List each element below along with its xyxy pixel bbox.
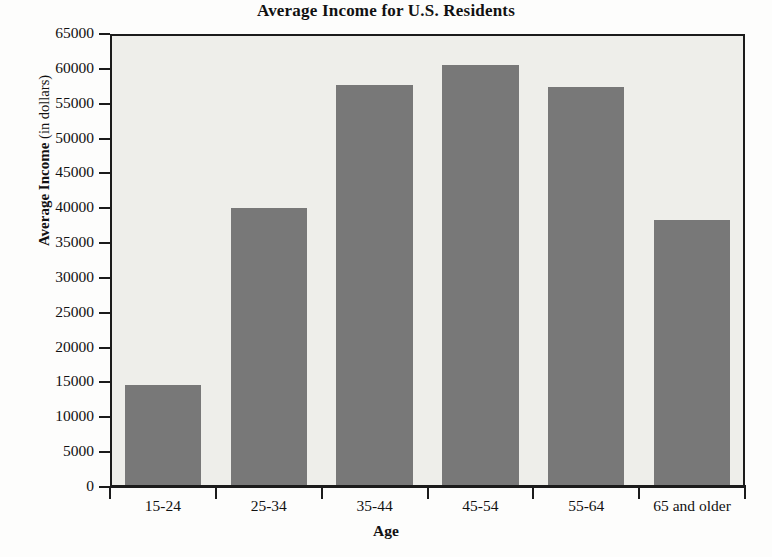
x-axis-tick-label: 45-54 — [428, 497, 534, 521]
x-axis-tick-mark — [427, 487, 429, 499]
y-axis-tick-mark — [99, 347, 110, 349]
y-axis-tick-mark — [99, 68, 110, 70]
y-axis-tick-label: 10000 — [0, 407, 94, 427]
chart-title: Average Income for U.S. Residents — [0, 1, 772, 21]
y-axis-tick-label: 15000 — [0, 372, 94, 392]
y-axis-tick-label: 40000 — [0, 198, 94, 218]
y-axis-tick-mark — [99, 381, 110, 383]
bar — [125, 385, 201, 487]
x-axis-tick-mark — [532, 487, 534, 499]
x-axis-tick-label: 65 and older — [639, 497, 745, 521]
y-axis-tick-mark — [99, 172, 110, 174]
bar — [336, 85, 412, 487]
y-axis-tick-mark — [99, 451, 110, 453]
y-axis-tick-label: 30000 — [0, 268, 94, 288]
y-axis-tick-label: 65000 — [0, 24, 94, 44]
y-axis-tick-mark — [99, 277, 110, 279]
y-axis-tick-mark — [99, 33, 110, 35]
y-axis-tick-mark — [99, 103, 110, 105]
x-axis-tick-label: 55-64 — [533, 497, 639, 521]
x-axis-tick-mark — [215, 487, 217, 499]
x-axis-title: Age — [0, 522, 772, 540]
y-axis-tick-label: 20000 — [0, 338, 94, 358]
y-axis-tick-label: 60000 — [0, 59, 94, 79]
y-axis-tick-mark — [99, 207, 110, 209]
y-axis-tick-mark — [99, 312, 110, 314]
y-axis-tick-label: 35000 — [0, 233, 94, 253]
x-axis-tick-mark — [638, 487, 640, 499]
x-axis-tick-mark — [321, 487, 323, 499]
y-axis-tick-label: 25000 — [0, 303, 94, 323]
y-axis-tick-mark — [99, 138, 110, 140]
bar — [548, 87, 624, 487]
bar — [442, 65, 518, 487]
bar — [231, 208, 307, 487]
x-axis-end-tick-mark — [744, 487, 746, 499]
x-axis-origin-tick-mark — [109, 487, 111, 499]
bar-chart-figure: Average Income for U.S. Residents Averag… — [0, 0, 772, 557]
bar — [654, 220, 730, 487]
x-axis-tick-label: 25-34 — [216, 497, 322, 521]
x-axis-tick-label: 15-24 — [110, 497, 216, 521]
x-axis-tick-label: 35-44 — [322, 497, 428, 521]
y-axis-tick-label: 0 — [0, 477, 94, 497]
y-axis-tick-label: 55000 — [0, 94, 94, 114]
y-axis-tick-group: 6500060000550005000045000400003500030000… — [0, 0, 110, 557]
y-axis-tick-label: 50000 — [0, 129, 94, 149]
y-axis-tick-label: 45000 — [0, 163, 94, 183]
y-axis-tick-mark — [99, 416, 110, 418]
y-axis-tick-label: 5000 — [0, 442, 94, 462]
y-axis-tick-mark — [99, 242, 110, 244]
plot-area — [110, 34, 745, 487]
